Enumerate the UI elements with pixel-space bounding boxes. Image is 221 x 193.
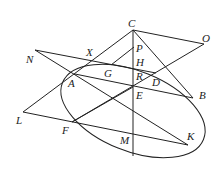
point-label-l: L: [15, 114, 22, 126]
point-label-c: C: [128, 17, 136, 29]
segment-gp: [111, 47, 134, 65]
point-label-b: B: [199, 89, 206, 101]
point-label-n: N: [25, 53, 34, 65]
segment-cl: [23, 30, 133, 112]
point-label-d: D: [151, 76, 160, 88]
geometry-diagram: COPNXHGARDEBLFMK: [0, 0, 221, 193]
diagram-shapes: [23, 30, 218, 177]
point-label-a: A: [67, 77, 75, 89]
point-label-m: M: [119, 134, 130, 146]
point-label-r: R: [135, 70, 143, 82]
segment-lk: [23, 112, 188, 145]
point-label-h: H: [135, 56, 145, 68]
point-label-e: E: [135, 89, 143, 101]
point-label-k: K: [186, 130, 195, 142]
point-label-f: F: [61, 124, 69, 136]
point-label-p: P: [135, 42, 143, 54]
point-label-g: G: [104, 67, 112, 79]
point-label-x: X: [85, 46, 94, 58]
point-label-o: O: [202, 32, 210, 44]
